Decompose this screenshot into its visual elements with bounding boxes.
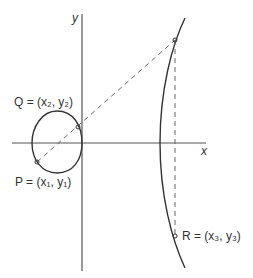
curve-oval-component <box>32 111 82 173</box>
point-r-label: R = (x₃, y₃) <box>182 229 241 243</box>
point-q-label: Q = (x₂, y₂) <box>14 95 73 109</box>
x-axis-label: x <box>200 144 208 158</box>
y-axis-label: y <box>71 11 79 25</box>
point-p-label: P = (x₁, y₁) <box>15 175 71 189</box>
elliptic-curve-diagram: y x Q = (x₂, y₂) P = (x₁, y₁) R = (x₃, y… <box>0 0 253 278</box>
